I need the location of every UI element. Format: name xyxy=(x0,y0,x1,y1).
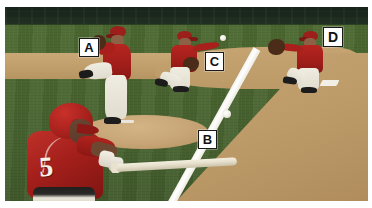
first-baseman-anchor-shoe xyxy=(301,87,317,93)
pitcher-plant-foot-shoe xyxy=(104,117,121,124)
baseball-upper xyxy=(220,35,226,41)
first-base xyxy=(320,80,340,86)
callout-label-a[interactable]: A xyxy=(79,38,99,57)
screenshot-root: 5 A B C D xyxy=(0,0,372,208)
baseball-lower xyxy=(223,110,231,118)
baseball-field-photo: 5 A B C D xyxy=(5,7,368,201)
callout-label-b[interactable]: B xyxy=(198,130,217,149)
callout-label-d[interactable]: D xyxy=(323,27,343,47)
batter-jersey-number: 5 xyxy=(38,153,54,182)
pitcher-pants xyxy=(105,75,127,119)
batter-legs xyxy=(33,187,95,201)
first-baseman-glove xyxy=(268,39,285,55)
infielder-lead-shoe xyxy=(173,86,189,92)
callout-label-c[interactable]: C xyxy=(205,52,224,71)
